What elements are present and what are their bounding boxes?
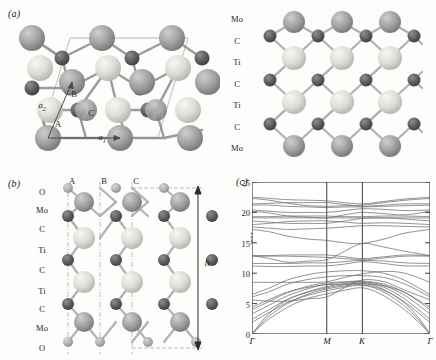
layer-label-mo-bottom: Mo (31, 323, 53, 333)
xtick-label-k: K (353, 336, 371, 346)
layer-label-ti-2: Ti (31, 286, 53, 296)
atoms-b (62, 183, 218, 347)
layer-label-ti-1: Ti (31, 245, 53, 255)
panel-a-sideview-structure (256, 8, 426, 168)
site-label-c: C (84, 108, 98, 118)
lattice-vector-a1-label: a1 (93, 132, 111, 144)
side-layer-label-c-1: C (226, 36, 248, 46)
panel-a-topview-structure (10, 10, 220, 160)
thickness-label-h: h (200, 258, 214, 268)
lattice-vector-a2-label: a2 (33, 100, 51, 112)
xtick-label-gamma-right: Γ (421, 336, 436, 346)
layer-label-o-bottom: O (31, 343, 53, 353)
site-label-b: B (67, 89, 81, 99)
figure-root: (a) (0, 0, 436, 360)
side-layer-label-ti-2: Ti (226, 100, 248, 110)
layer-label-c-2: C (31, 265, 53, 275)
ytick-label-20: 20 (236, 208, 250, 218)
side-layer-label-c-3: C (226, 122, 248, 132)
layer-label-c-1: C (31, 224, 53, 234)
layer-label-c-3: C (31, 304, 53, 314)
panel-b-tag: (b) (8, 178, 20, 189)
side-layer-label-mo-bottom: Mo (226, 143, 248, 153)
xtick-label-m: M (318, 336, 336, 346)
a2-subscript: 2 (43, 106, 46, 112)
xtick-label-gamma-left: Γ (243, 336, 261, 346)
atoms-side-a (264, 11, 421, 157)
layer-label-mo-top: Mo (31, 205, 53, 215)
site-label-a: A (51, 119, 65, 129)
phonon-dispersion-chart (252, 182, 430, 334)
layer-label-o-top: O (31, 187, 53, 197)
thickness-arrow (195, 186, 201, 350)
ytick-label-5: 5 (236, 300, 250, 310)
side-layer-label-mo-top: Mo (226, 14, 248, 24)
bond-network-side-a (270, 22, 422, 146)
a1-subscript: 1 (103, 138, 106, 144)
ytick-label-10: 10 (236, 269, 250, 279)
side-layer-label-ti-1: Ti (226, 57, 248, 67)
panel-b-structure (56, 182, 226, 357)
ytick-label-25: 25 (236, 178, 250, 188)
side-layer-label-c-2: C (226, 79, 248, 89)
ytick-label-15: 15 (236, 239, 250, 249)
